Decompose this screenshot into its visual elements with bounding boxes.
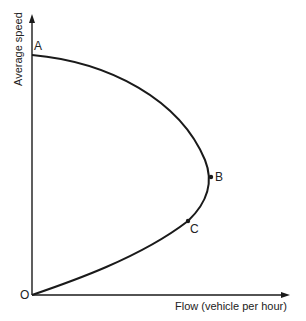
y-axis-arrow-icon <box>29 14 35 23</box>
point-b-label: B <box>215 170 223 184</box>
speed-flow-diagram: Average speed Flow (vehicle per hour) A … <box>0 0 306 321</box>
point-c-label: C <box>190 222 199 236</box>
point-b-marker <box>209 175 213 179</box>
origin-label: O <box>20 288 29 302</box>
speed-flow-curve <box>32 55 209 295</box>
y-axis-label: Average speed <box>12 12 24 86</box>
x-axis-label: Flow (vehicle per hour) <box>175 300 287 312</box>
point-a-label: A <box>34 39 42 53</box>
x-axis-arrow-icon <box>281 292 290 298</box>
diagram-canvas <box>0 0 306 321</box>
